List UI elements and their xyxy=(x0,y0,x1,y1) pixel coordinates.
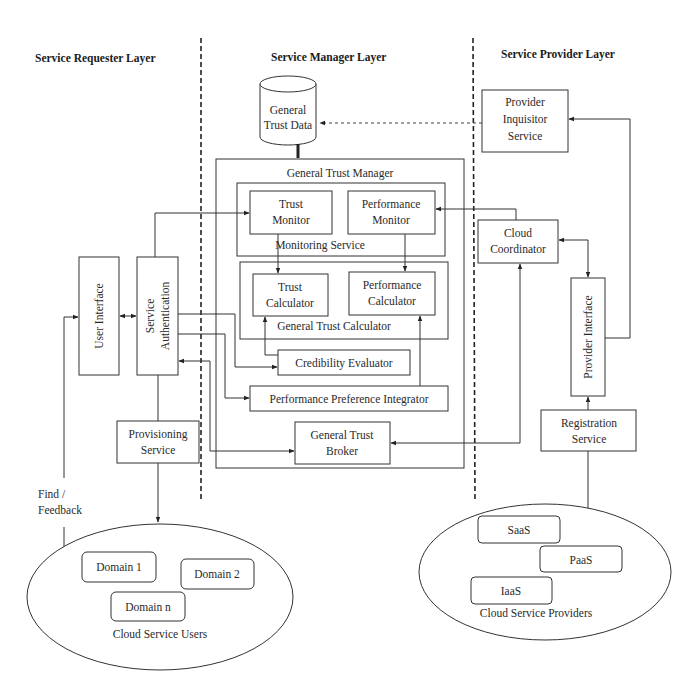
layer-divider-right xyxy=(473,38,475,500)
general-trust-data-db: General Trust Data xyxy=(260,76,316,145)
svg-text:Registration: Registration xyxy=(561,417,617,430)
architecture-diagram: Service Requester Layer Service Manager … xyxy=(0,0,683,687)
svg-text:Trust: Trust xyxy=(278,281,303,293)
svg-text:Calculator: Calculator xyxy=(368,295,416,307)
svg-text:User Interface: User Interface xyxy=(93,283,105,348)
find-feedback-label: Find / xyxy=(38,488,66,500)
svg-text:Authentication: Authentication xyxy=(159,282,171,351)
svg-text:Service: Service xyxy=(141,444,175,456)
svg-text:Credibility Evaluator: Credibility Evaluator xyxy=(295,357,393,370)
svg-text:Feedback: Feedback xyxy=(38,504,82,516)
manager-layer-title: Service Manager Layer xyxy=(271,51,386,64)
provider-layer-title: Service Provider Layer xyxy=(501,48,615,61)
svg-text:Trust Data: Trust Data xyxy=(264,119,312,131)
svg-text:Provisioning: Provisioning xyxy=(129,428,188,441)
svg-text:Broker: Broker xyxy=(326,445,358,457)
svg-text:Calculator: Calculator xyxy=(266,297,314,309)
svg-text:General Trust: General Trust xyxy=(311,429,375,441)
svg-text:Domain n: Domain n xyxy=(125,601,171,613)
svg-text:Provider: Provider xyxy=(505,96,545,108)
svg-text:Cloud: Cloud xyxy=(504,227,532,239)
svg-text:Trust: Trust xyxy=(279,198,304,210)
svg-text:Domain 1: Domain 1 xyxy=(96,561,142,573)
svg-text:SaaS: SaaS xyxy=(508,524,531,536)
cloud-service-providers-label: Cloud Service Providers xyxy=(480,607,593,619)
svg-text:Domain 2: Domain 2 xyxy=(194,568,240,580)
svg-text:Provider Interface: Provider Interface xyxy=(582,295,594,378)
svg-text:Monitor: Monitor xyxy=(372,214,410,226)
svg-text:Performance: Performance xyxy=(362,198,421,210)
svg-text:Performance: Performance xyxy=(363,279,422,291)
svg-text:Service: Service xyxy=(572,433,606,445)
monitoring-service-title: Monitoring Service xyxy=(275,239,365,252)
general-trust-calculator-title: General Trust Calculator xyxy=(277,320,391,332)
svg-text:Inquisitor: Inquisitor xyxy=(503,113,548,126)
svg-text:Service: Service xyxy=(508,130,542,142)
svg-text:Monitor: Monitor xyxy=(272,214,310,226)
svg-text:General: General xyxy=(270,104,306,116)
svg-text:IaaS: IaaS xyxy=(501,585,521,597)
requester-layer-title: Service Requester Layer xyxy=(35,52,156,65)
svg-text:Service: Service xyxy=(144,299,156,333)
general-trust-manager-title: General Trust Manager xyxy=(287,167,394,180)
svg-text:PaaS: PaaS xyxy=(570,554,593,566)
cloud-service-users-label: Cloud Service Users xyxy=(113,628,208,640)
svg-text:Performance Preference Integra: Performance Preference Integrator xyxy=(270,393,429,406)
svg-text:Coordinator: Coordinator xyxy=(490,243,546,255)
